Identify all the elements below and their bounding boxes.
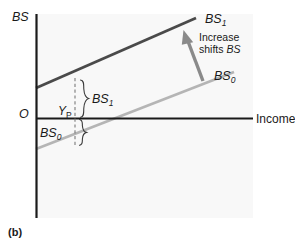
figure-caption: (b) (8, 226, 22, 238)
shift-annotation-line2: shifts BS (199, 43, 240, 55)
origin-label: O (19, 107, 29, 121)
figure-screen: BS Income O BS1 BS0 Increase (0, 0, 295, 247)
economics-diagram: BS Income O BS1 BS0 Increase (0, 0, 295, 247)
shift-annotation-line1: Increase (199, 31, 239, 43)
x-axis-label: Income (256, 112, 295, 126)
y-axis-label: BS (12, 10, 29, 24)
